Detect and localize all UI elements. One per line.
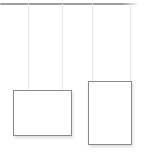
picture-frame-landscape	[13, 90, 72, 136]
hanging-wire	[92, 4, 93, 81]
hanging-wire	[130, 4, 131, 81]
hanging-wire	[62, 4, 63, 90]
empty-gallery-illustration	[0, 0, 145, 159]
hanging-wire	[28, 4, 29, 90]
hanging-rail	[0, 3, 139, 5]
picture-frame-portrait	[88, 81, 132, 145]
